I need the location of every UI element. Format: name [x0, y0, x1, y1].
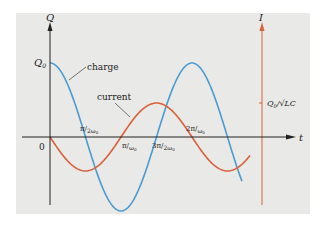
lc-oscillation-diagram: Q I t Q0 0 Q0/√LC charge current π/2ω0 π… [0, 0, 321, 228]
i-axis-arrow-icon [260, 22, 265, 31]
t-axis-arrow-icon [286, 135, 296, 140]
q0-label: Q0 [34, 57, 46, 69]
charge-label: charge [87, 62, 119, 72]
current-amplitude-label: Q0/√LC [267, 99, 296, 109]
tick-label-3pi-over-2w0: 3π/2ω0 [152, 142, 175, 152]
t-axis-label: t [299, 132, 304, 143]
i-axis-label: I [258, 12, 264, 23]
q-axis-label: Q [46, 12, 54, 23]
q-axis-arrow-icon [48, 22, 53, 31]
tick-label-pi-over-2w0: π/2ω0 [80, 125, 99, 135]
current-label: current [97, 92, 132, 102]
origin-label: 0 [39, 142, 45, 152]
tick-label-pi-over-w0: π/ω0 [122, 142, 137, 152]
